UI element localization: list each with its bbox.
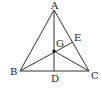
label-a: A (50, 0, 59, 11)
label-g: G (56, 38, 64, 49)
triangle-diagram: A B C D E G (0, 0, 102, 89)
label-e: E (74, 32, 81, 43)
point-g-dot (52, 49, 55, 52)
label-d: D (51, 73, 59, 84)
label-b: B (10, 66, 17, 77)
label-c: C (91, 70, 99, 81)
